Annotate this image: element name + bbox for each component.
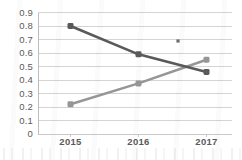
x-tick-label: 2017 — [181, 136, 233, 147]
x-tick-label: 2015 — [45, 136, 97, 147]
x-tick-label: 2016 — [113, 136, 165, 147]
line-chart: 0.90.80.70.60.50.40.30.20.10 20152016201… — [0, 0, 242, 160]
x-axis-labels: 201520162017 — [0, 0, 242, 160]
